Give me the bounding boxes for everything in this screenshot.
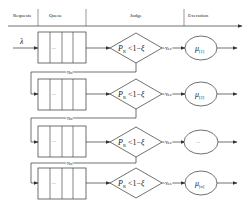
no-label: No <box>67 116 73 121</box>
queue-ellipsis: ··· <box>52 92 57 97</box>
stage-row-4: ··· PR <1−ξ Yes Yes μ[n] <box>38 168 237 199</box>
header-requests: Requests <box>13 13 31 18</box>
queue-ellipsis: ··· <box>52 181 57 186</box>
condition-text: PR <1−ξ <box>117 90 145 100</box>
server-node <box>184 130 218 154</box>
condition-text: PR <1−ξ <box>117 179 145 189</box>
no-label: No <box>67 161 73 166</box>
header-queue: Queue <box>49 13 63 18</box>
condition-text: PR <1−ξ <box>117 44 145 54</box>
arrival-rate-label: λ <box>19 37 24 46</box>
queue-ellipsis: ··· <box>52 139 57 144</box>
queue-ellipsis: ··· <box>52 46 57 51</box>
yes-label: Yes <box>165 140 172 145</box>
queue-judge-execution-diagram: Requests Queue Judge Execution λ ··· PR … <box>0 0 252 208</box>
condition-text: PR <1−ξ <box>117 138 145 148</box>
yes-label: Yes <box>165 46 172 51</box>
yes-label: Yes <box>165 92 172 97</box>
no-label: No <box>67 70 73 75</box>
header: Requests Queue Judge Execution <box>8 9 242 26</box>
yes-label: Yes <box>165 181 172 186</box>
stage-row-1: ··· PR <1−ξ Yes Yes μ[1] <box>38 32 237 63</box>
stage-row-2: ··· PR <1−ξ Yes Yes μ[2] <box>38 79 237 110</box>
server-label: ··· <box>196 140 201 145</box>
header-judge: Judge <box>130 13 142 18</box>
stage-row-3: ··· PR <1−ξ Yes Yes ··· <box>38 126 237 157</box>
header-execution: Execution <box>188 13 209 18</box>
